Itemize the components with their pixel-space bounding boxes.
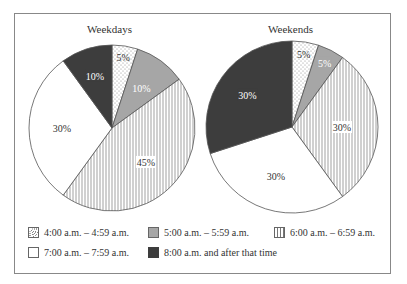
legend-label: 7:00 a.m. – 7:59 a.m. (44, 247, 129, 258)
slice-label: 30% (333, 122, 351, 133)
slice-label: 5% (318, 58, 331, 69)
legend-label: 6:00 a.m. – 6:59 a.m. (290, 227, 375, 238)
gray-swatch-icon (148, 227, 159, 238)
dark-swatch-icon (148, 247, 159, 258)
legend-item-8am: 8:00 a.m. and after that time (148, 247, 277, 258)
legend-label: 4:00 a.m. – 4:59 a.m. (44, 227, 129, 238)
slice-label: 30% (267, 171, 285, 182)
legend-label: 5:00 a.m. – 5:59 a.m. (164, 227, 249, 238)
legend-item-4am: 4:00 a.m. – 4:59 a.m. (28, 227, 129, 238)
slice-label: 5% (297, 49, 310, 60)
slice-label: 5% (117, 52, 130, 63)
legend-item-6am: 6:00 a.m. – 6:59 a.m. (274, 227, 375, 238)
legend-item-7am: 7:00 a.m. – 7:59 a.m. (28, 247, 129, 258)
dots-swatch-icon (28, 227, 39, 238)
pie-charts: 5%10%45%30%10% 5%5%30%30%30% (0, 0, 407, 284)
slice-label: 30% (238, 90, 256, 101)
slice-label: 10% (132, 83, 150, 94)
weekdays-title: Weekdays (87, 23, 132, 35)
vertical-lines-swatch-icon (274, 227, 285, 238)
slice-label: 45% (137, 157, 155, 168)
slice-label: 30% (53, 123, 71, 134)
slice-label: 10% (86, 71, 104, 82)
legend-label: 8:00 a.m. and after that time (164, 247, 277, 258)
white-swatch-icon (28, 247, 39, 258)
pie-weekdays: 5%10%45%30%10% (29, 45, 195, 211)
pie-weekends: 5%5%30%30%30% (206, 41, 378, 213)
legend-item-5am: 5:00 a.m. – 5:59 a.m. (148, 227, 249, 238)
weekends-title: Weekends (268, 23, 313, 35)
